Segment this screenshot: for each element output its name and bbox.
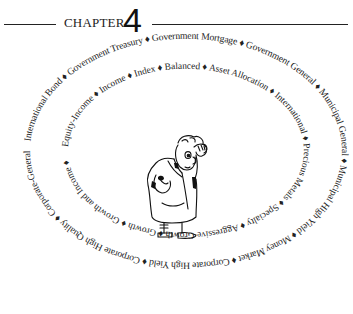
puzzled-man-illustration: [138, 133, 216, 241]
